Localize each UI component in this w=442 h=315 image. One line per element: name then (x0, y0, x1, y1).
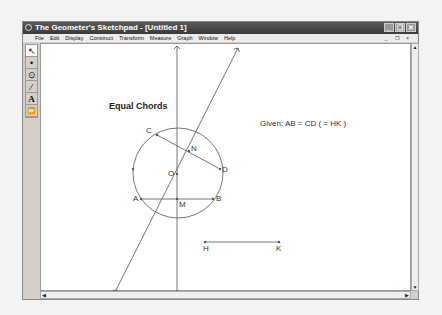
menu-measure[interactable]: Measure (150, 34, 171, 42)
label-k[interactable]: K (276, 244, 281, 253)
scroll-right-button[interactable]: ▶ (404, 292, 410, 298)
scroll-down-button[interactable]: ▼ (412, 284, 418, 290)
window-title: The Geometer's Sketchpad - [Untitled 1] (35, 23, 187, 32)
given-caption[interactable]: Given: AB = CD ( = HK ) (260, 119, 346, 128)
label-d[interactable]: D (222, 165, 228, 174)
text-tool-button[interactable]: A (26, 93, 37, 105)
sketch-title[interactable]: Equal Chords (109, 101, 168, 111)
sketch-canvas[interactable]: Equal Chords Given: AB = CD ( = HK ) A B… (40, 43, 411, 291)
label-h[interactable]: H (203, 244, 209, 253)
circle-o (133, 128, 223, 218)
label-b[interactable]: B (216, 194, 221, 203)
restore-button[interactable]: ❐ (395, 23, 405, 32)
app-icon (25, 24, 32, 31)
vertical-scrollbar[interactable]: ▲ ▼ (411, 43, 419, 291)
label-o[interactable]: O (168, 169, 174, 178)
custom-tool-button[interactable]: ⏩ (26, 105, 37, 117)
label-c[interactable]: C (146, 126, 152, 135)
menu-display[interactable]: Display (65, 34, 83, 42)
straightedge-tool-button[interactable]: ⁄ (26, 81, 37, 93)
toolbox: ↖ • ⊙ ⁄ A ⏩ (25, 44, 38, 118)
label-a[interactable]: A (133, 194, 138, 203)
compass-tool-button[interactable]: ⊙ (26, 69, 37, 81)
title-bar[interactable]: The Geometer's Sketchpad - [Untitled 1] … (23, 22, 418, 34)
app-window: The Geometer's Sketchpad - [Untitled 1] … (22, 21, 419, 300)
menu-window[interactable]: Window (199, 34, 219, 42)
document-window-controls[interactable]: _ ❐ × (385, 34, 412, 42)
point-tool-button[interactable]: • (26, 57, 37, 69)
menu-help[interactable]: Help (224, 34, 235, 42)
horizontal-scrollbar[interactable]: ◀ ▶ (40, 291, 411, 299)
arrow-tool-button[interactable]: ↖ (26, 45, 37, 57)
menu-edit[interactable]: Edit (50, 34, 59, 42)
scroll-left-button[interactable]: ◀ (41, 292, 47, 298)
menu-construct[interactable]: Construct (89, 34, 113, 42)
close-button[interactable]: ✕ (406, 23, 416, 32)
menu-file[interactable]: File (35, 34, 44, 42)
menu-transform[interactable]: Transform (119, 34, 144, 42)
menu-bar: File Edit Display Construct Transform Me… (23, 34, 418, 42)
label-n[interactable]: N (191, 144, 197, 153)
menu-graph[interactable]: Graph (177, 34, 192, 42)
minimize-button[interactable]: _ (384, 23, 394, 32)
scroll-up-button[interactable]: ▲ (412, 44, 418, 50)
label-m[interactable]: M (179, 200, 186, 209)
